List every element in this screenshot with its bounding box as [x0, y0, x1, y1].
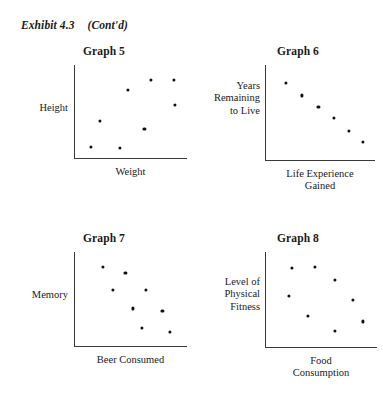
- data-point: [313, 266, 316, 269]
- plot-area-5: [74, 65, 187, 159]
- x-axis-label-8: Food Consumption: [257, 355, 383, 380]
- x-axis-label-5: Weight: [74, 166, 187, 178]
- plot-area-7: [74, 252, 187, 347]
- data-point: [144, 288, 147, 291]
- data-point: [172, 78, 175, 81]
- data-point: [290, 267, 293, 270]
- graph-panel-6: Graph 6 Years Remaining to Live Life Exp…: [213, 45, 383, 215]
- y-axis-label-8: Level of Physical Fitness: [213, 276, 260, 313]
- graph-panel-5: Graph 5 Height Weight: [18, 45, 190, 197]
- data-point: [150, 78, 153, 81]
- data-point: [161, 310, 164, 313]
- graph-panel-8: Graph 8 Level of Physical Fitness Food C…: [213, 232, 383, 400]
- data-point: [132, 307, 135, 310]
- data-point: [126, 89, 129, 92]
- data-point: [98, 119, 101, 122]
- graph-title-8: Graph 8: [213, 232, 383, 244]
- data-point: [284, 81, 287, 84]
- y-axis-label-6: Years Remaining to Live: [213, 80, 260, 117]
- data-point: [89, 145, 92, 148]
- data-point: [101, 265, 104, 268]
- data-point: [361, 320, 364, 323]
- data-point: [124, 271, 127, 274]
- data-point: [347, 129, 350, 132]
- exhibit-header: Exhibit 4.3(Cont'd): [21, 19, 128, 31]
- plot-area-8: [265, 252, 377, 348]
- exhibit-continued-label: (Cont'd): [88, 19, 128, 31]
- data-point: [351, 298, 354, 301]
- exhibit-label: Exhibit 4.3: [21, 19, 75, 31]
- data-point: [333, 278, 336, 281]
- plot-area-6: [265, 65, 375, 161]
- data-point: [361, 140, 364, 143]
- y-axis-label-7: Memory: [18, 289, 68, 301]
- graph-title-7: Graph 7: [18, 232, 190, 244]
- x-axis-label-7: Beer Consumed: [64, 354, 197, 366]
- data-point: [307, 314, 310, 317]
- y-axis-label-5: Height: [18, 102, 68, 114]
- data-point: [173, 103, 176, 106]
- graph-title-6: Graph 6: [213, 45, 383, 57]
- data-point: [111, 288, 114, 291]
- graph-title-5: Graph 5: [18, 45, 190, 57]
- data-point: [288, 294, 291, 297]
- data-point: [333, 329, 336, 332]
- data-point: [300, 94, 303, 97]
- data-point: [143, 128, 146, 131]
- data-point: [141, 327, 144, 330]
- data-point: [332, 117, 335, 120]
- data-point: [118, 146, 121, 149]
- graph-panel-7: Graph 7 Memory Beer Consumed: [18, 232, 190, 384]
- data-point: [317, 105, 320, 108]
- data-point: [169, 330, 172, 333]
- x-axis-label-6: Life Experience Gained: [255, 168, 383, 193]
